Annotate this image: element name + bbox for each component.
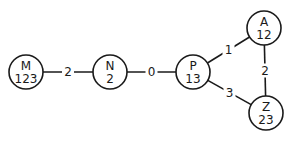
edge-n-p: 0 — [127, 65, 176, 79]
node-label: Z — [262, 100, 270, 114]
node-value: 123 — [15, 72, 38, 86]
graph-diagram: 20123 M123N2P13A12Z23 — [0, 0, 294, 141]
edge-m-n: 2 — [43, 65, 93, 79]
node-value: 12 — [256, 28, 271, 42]
node-label: P — [189, 59, 196, 73]
edge-p-z: 3 — [208, 80, 251, 104]
edge-weight-label: 3 — [226, 86, 234, 100]
node-n: N2 — [93, 55, 127, 89]
node-label: A — [260, 15, 269, 29]
edge-a-z: 2 — [259, 45, 271, 96]
node-z: Z23 — [249, 96, 283, 130]
edge-weight-label: 0 — [148, 65, 156, 79]
node-label: N — [106, 59, 115, 73]
node-value: 23 — [258, 113, 273, 127]
node-label: M — [21, 59, 31, 73]
edge-p-a: 1 — [207, 37, 249, 63]
edge-weight-label: 2 — [261, 64, 269, 78]
node-a: A12 — [247, 11, 281, 45]
node-m: M123 — [9, 55, 43, 89]
edge-weight-label: 1 — [225, 43, 233, 57]
node-p: P13 — [176, 55, 210, 89]
edge-weight-label: 2 — [64, 65, 72, 79]
edges-layer: 20123 — [43, 37, 271, 105]
node-value: 13 — [185, 72, 200, 86]
node-value: 2 — [106, 72, 114, 86]
